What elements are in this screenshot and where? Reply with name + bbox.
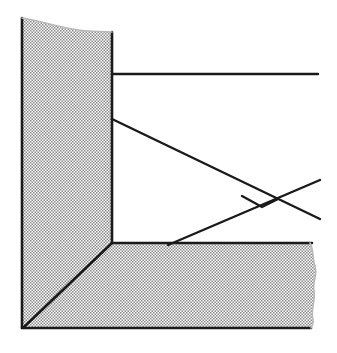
valley-vertex-notch xyxy=(242,196,278,207)
section-diagram xyxy=(0,0,337,353)
construction-lines-group xyxy=(112,74,320,245)
ascending-diagonal-line xyxy=(168,180,320,245)
diagram-canvas xyxy=(0,0,337,353)
descending-diagonal-line xyxy=(112,119,320,219)
